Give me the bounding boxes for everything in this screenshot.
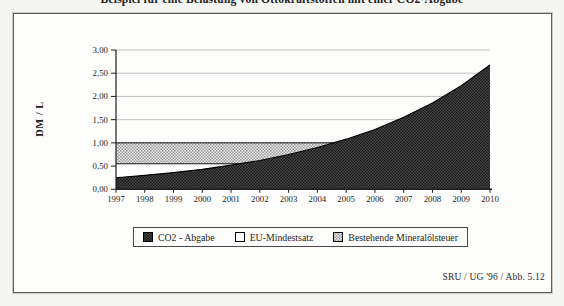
x-tick-label: 2002	[251, 194, 269, 204]
x-tick-label: 2007	[395, 194, 413, 204]
x-tick-label: 2003	[280, 194, 298, 204]
legend-item-mineraloelsteuer: Bestehende Mineralölsteuer	[333, 232, 458, 243]
x-tick-label: 2008	[424, 194, 442, 204]
x-tick-label: 1999	[165, 194, 183, 204]
area-chart: 0,000,501,001,502,002,503,00199719981999…	[0, 0, 564, 306]
x-tick-label: 2004	[309, 194, 327, 204]
scanned-figure-page: Beispiel für eine Belastung von Ottokraf…	[0, 0, 564, 306]
legend-item-co2-abgabe: CO2 - Abgabe	[143, 232, 215, 243]
x-tick-label: 2005	[337, 194, 355, 204]
y-tick-label: 1,00	[93, 138, 109, 148]
y-tick-label: 3,00	[93, 45, 109, 55]
y-axis-title: DM / L	[34, 101, 45, 137]
x-tick-label: 1998	[136, 194, 154, 204]
chart-layers: 0,000,501,001,502,002,503,00199719981999…	[93, 45, 500, 204]
x-tick-label: 2006	[366, 194, 384, 204]
legend-label: EU-Mindestsatz	[250, 232, 314, 243]
y-tick-label: 2,00	[93, 91, 109, 101]
x-tick-label: 1997	[107, 194, 125, 204]
legend-item-eu-mindestsatz: EU-Mindestsatz	[235, 232, 314, 243]
x-tick-label: 2000	[194, 194, 212, 204]
chart-legend: CO2 - Abgabe EU-Mindestsatz Bestehende M…	[133, 227, 468, 247]
legend-swatch-gray-checker-icon	[333, 232, 344, 243]
legend-label: Bestehende Mineralölsteuer	[348, 232, 458, 243]
x-tick-label: 2009	[452, 194, 470, 204]
x-tick-label: 2010	[481, 194, 499, 204]
legend-swatch-dark-checker-icon	[143, 232, 154, 243]
y-tick-label: 2,50	[93, 68, 109, 78]
x-tick-label: 2001	[222, 194, 240, 204]
y-tick-label: 0,00	[93, 184, 109, 194]
y-tick-label: 0,50	[93, 161, 109, 171]
source-note: SRU / UG '96 / Abb. 5.12	[442, 272, 545, 282]
legend-swatch-white-icon	[235, 232, 246, 243]
legend-label: CO2 - Abgabe	[158, 232, 215, 243]
y-tick-label: 1,50	[93, 115, 109, 125]
